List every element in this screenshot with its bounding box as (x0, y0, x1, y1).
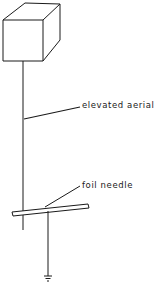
aerial-label: elevated aerial (82, 101, 155, 110)
aerial-label-leader (24, 107, 80, 119)
cube-box (3, 3, 60, 61)
needle-label-leader (45, 186, 80, 207)
needle-label: foil needle (82, 181, 133, 190)
diagram-canvas (0, 0, 165, 284)
ground-icon (44, 276, 52, 281)
foil-needle-bar (12, 204, 89, 216)
